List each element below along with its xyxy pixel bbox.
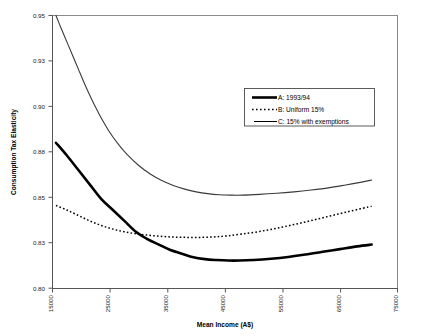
x-axis-title: Mean Income (A$) [197,321,253,329]
y-tick-label: 0.80 [33,285,46,292]
legend-item-c-label: C: 15% with exemptions [278,118,349,126]
y-tick-label: 0.83 [33,239,46,246]
x-tick-label: 65000 [335,294,342,312]
x-tick-label: 45000 [219,294,226,312]
x-tick-label: 75000 [392,294,399,312]
y-tick-label: 0.95 [33,12,46,19]
chart-background [0,0,422,336]
legend-item-a-label: A: 1993/94 [278,94,310,101]
y-tick-label: 0.90 [33,103,46,110]
consumption-tax-elasticity-chart: 0.95 0.93 0.90 0.88 0.85 0.83 0.80 15000… [0,0,422,336]
x-tick-label: 15000 [47,294,54,312]
chart-figure: 0.95 0.93 0.90 0.88 0.85 0.83 0.80 15000… [0,0,422,336]
x-tick-label: 35000 [162,294,169,312]
legend-item-b-label: B: Uniform 15% [278,106,324,113]
y-tick-label: 0.85 [33,194,46,201]
chart-legend: A: 1993/94 B: Uniform 15% C: 15% with ex… [245,89,375,127]
x-tick-label: 25000 [104,294,111,312]
y-axis-title: Consumption Tax Elasticity [10,109,18,195]
y-tick-label: 0.88 [33,148,46,155]
x-tick-label: 55000 [277,294,284,312]
y-tick-label: 0.93 [33,57,46,64]
